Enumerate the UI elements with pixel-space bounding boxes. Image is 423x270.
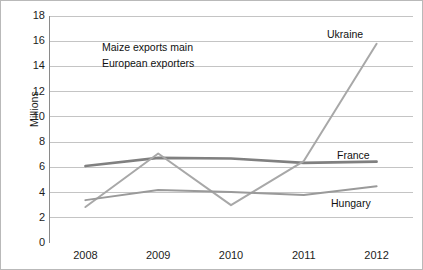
series-label-hungary: Hungary xyxy=(331,197,371,209)
y-tick-label: 16 xyxy=(21,35,45,46)
series-label-ukraine: Ukraine xyxy=(327,28,363,40)
y-tick-label: 6 xyxy=(21,161,45,172)
x-tick-label: 2008 xyxy=(73,249,97,261)
y-tick-label: 10 xyxy=(21,111,45,122)
y-tick-label: 8 xyxy=(21,136,45,147)
annotation-line-1: Maize exports main xyxy=(102,41,193,53)
y-tick-label: 12 xyxy=(21,86,45,97)
y-tick-label: 14 xyxy=(21,60,45,71)
x-tick-label: 2012 xyxy=(364,249,388,261)
y-tick-label: 2 xyxy=(21,212,45,223)
y-tick-label: 4 xyxy=(21,187,45,198)
x-tick-label: 2009 xyxy=(146,249,170,261)
x-axis-tick-labels: 20082009201020112012 xyxy=(49,249,413,265)
y-tick-label: 18 xyxy=(21,10,45,21)
y-tick-label: 0 xyxy=(21,237,45,248)
annotation-line-2: European exporters xyxy=(102,57,194,69)
series-line-france xyxy=(85,158,376,166)
x-tick-label: 2011 xyxy=(292,249,316,261)
chart-figure: Millions 024681012141618 200820092010201… xyxy=(0,0,423,270)
series-label-france: France xyxy=(337,149,370,161)
y-axis-tick-labels: 024681012141618 xyxy=(19,16,45,243)
x-tick-label: 2010 xyxy=(219,249,243,261)
